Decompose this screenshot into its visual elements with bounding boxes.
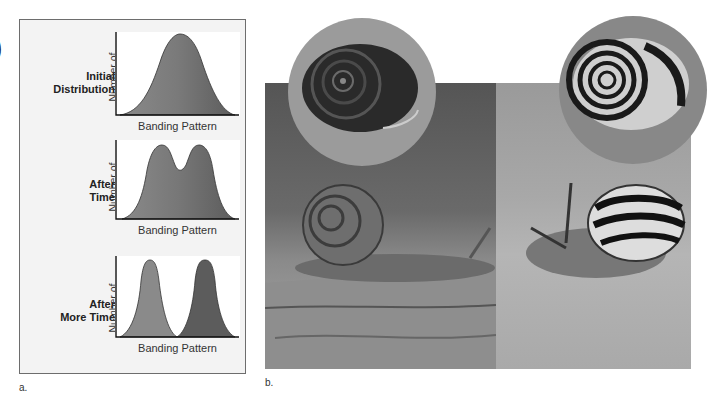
graph-row-after-time: After Time Number ofIndividuals Banding … xyxy=(20,138,245,256)
stage-label: After Time xyxy=(20,178,115,204)
panel-a-distribution-graphs: Initial Distribution Number ofIndividual… xyxy=(19,19,246,374)
inset-unbanded-shell xyxy=(288,18,436,166)
x-axis-label: Banding Pattern xyxy=(115,120,240,132)
stage-label: Initial Distribution xyxy=(20,70,115,96)
plot-bimodal-separated xyxy=(115,256,240,338)
plot-unimodal xyxy=(115,32,240,116)
plot-bimodal-overlapping xyxy=(115,140,240,220)
stage-label: After More Time xyxy=(20,298,115,324)
x-axis-label: Banding Pattern xyxy=(115,224,240,236)
caption-b: b. xyxy=(265,377,273,388)
x-axis-label: Banding Pattern xyxy=(115,342,240,354)
graph-row-initial: Initial Distribution Number ofIndividual… xyxy=(20,20,245,138)
inset-banded-shell xyxy=(559,16,707,164)
graph-row-after-more-time: After More Time Number ofIndividuals Ban… xyxy=(20,256,245,374)
cropped-edge-glyph: ) xyxy=(0,36,2,60)
caption-a: a. xyxy=(19,382,27,393)
